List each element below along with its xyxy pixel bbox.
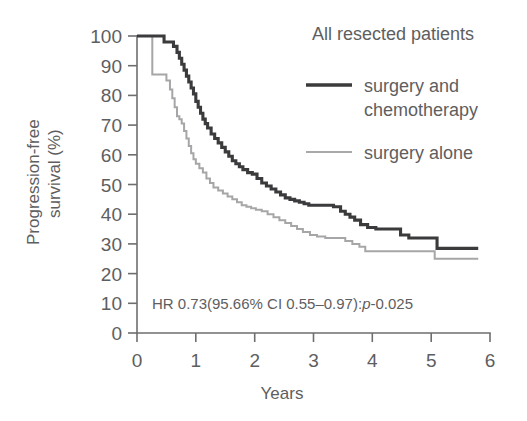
y-tick-label-60: 60: [101, 145, 122, 166]
chart-title: All resected patients: [312, 24, 474, 44]
y-tick-label-80: 80: [101, 85, 122, 106]
y-axis-title: Progression-free survival (%): [24, 119, 64, 245]
y-axis-ticks: [128, 36, 137, 333]
x-axis-tick-labels: 0 1 2 3 4 5 6: [132, 350, 496, 371]
y-tick-label-0: 0: [111, 323, 122, 344]
kaplan-meier-figure: All resected patients Progression-free s…: [0, 0, 527, 421]
y-tick-label-40: 40: [101, 204, 122, 225]
hazard-ratio-annotation: HR 0.73(95.66% CI 0.55–0.97):p-0.025: [152, 295, 413, 312]
x-tick-label-6: 6: [485, 350, 496, 371]
legend-label-surgery-and-chemotherapy-line1: surgery and: [364, 76, 459, 96]
y-tick-label-30: 30: [101, 234, 122, 255]
y-axis-title-line1: Progression-free: [24, 119, 43, 245]
x-tick-label-1: 1: [191, 350, 202, 371]
y-tick-label-100: 100: [90, 26, 122, 47]
x-tick-label-4: 4: [367, 350, 378, 371]
p-value-number: -0.025: [370, 295, 413, 312]
y-tick-label-10: 10: [101, 293, 122, 314]
chart-legend: surgery and chemotherapy surgery alone: [306, 76, 478, 163]
y-tick-label-90: 90: [101, 56, 122, 77]
x-axis-ticks: [137, 333, 490, 342]
y-axis-title-line2: survival (%): [45, 129, 64, 218]
x-tick-label-5: 5: [426, 350, 437, 371]
y-tick-label-20: 20: [101, 264, 122, 285]
x-tick-label-3: 3: [308, 350, 319, 371]
y-axis-tick-labels: 100 90 80 70 60 50 40 30 20 10 0: [90, 26, 122, 344]
legend-label-surgery-and-chemotherapy-line2: chemotherapy: [364, 100, 478, 120]
x-tick-label-2: 2: [249, 350, 260, 371]
survival-chart-svg: All resected patients Progression-free s…: [0, 0, 527, 421]
x-axis-title: Years: [261, 384, 304, 403]
y-tick-label-50: 50: [101, 175, 122, 196]
x-tick-label-0: 0: [132, 350, 143, 371]
y-tick-label-70: 70: [101, 115, 122, 136]
legend-label-surgery-alone: surgery alone: [364, 143, 473, 163]
p-value-symbol: p: [361, 295, 370, 312]
hazard-ratio-annotation-main: HR 0.73(95.66% CI 0.55–0.97):: [152, 295, 362, 312]
